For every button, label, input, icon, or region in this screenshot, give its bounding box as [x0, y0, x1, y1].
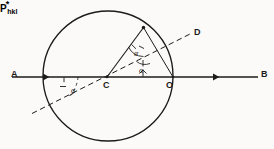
diagram-svg: [0, 0, 274, 149]
label-point-d: D: [194, 28, 201, 37]
point-o-marker: [172, 76, 174, 78]
figure-canvas: A B C D O P*hkl α α α: [0, 0, 274, 149]
label-point-a: A: [11, 70, 18, 79]
label-point-o: O: [166, 81, 173, 90]
label-point-b: B: [261, 70, 268, 79]
label-angle-alpha-1: α: [71, 87, 75, 95]
beam-arrowhead-left: [43, 74, 49, 81]
point-c-marker: [106, 76, 109, 79]
label-p-hkl-subscript: hkl: [7, 8, 17, 15]
beam-arrowhead-right: [213, 74, 219, 81]
label-angle-alpha-2: α: [134, 50, 138, 58]
label-angle-alpha-3: α: [139, 67, 143, 75]
point-p-marker: [142, 26, 145, 29]
label-point-c: C: [103, 81, 110, 90]
